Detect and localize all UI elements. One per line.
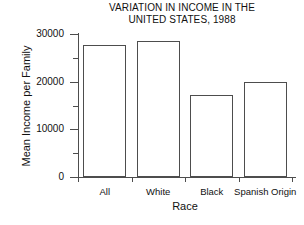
bar-black	[190, 95, 233, 177]
x-tick	[239, 177, 240, 182]
x-tick-label: Spanish Origin	[220, 186, 304, 197]
bar-all	[83, 45, 126, 177]
y-tick-label: 10000	[4, 124, 64, 134]
x-tick	[292, 177, 293, 182]
x-tick	[132, 177, 133, 182]
y-tick-label: 30000	[4, 29, 64, 39]
x-tick	[185, 177, 186, 182]
y-axis-label: Mean Income per Family	[20, 26, 32, 186]
chart-title: VARIATION IN INCOME IN THE UNITED STATES…	[60, 2, 304, 26]
bar-chart-figure: VARIATION IN INCOME IN THE UNITED STATES…	[0, 0, 304, 225]
y-tick-major	[70, 82, 78, 83]
y-axis-line	[78, 33, 79, 178]
y-tick-major	[70, 177, 78, 178]
chart-title-line-2: UNITED STATES, 1988	[60, 14, 304, 26]
y-tick-label: 0	[4, 172, 64, 182]
x-tick	[78, 177, 79, 182]
bar-spanish-origin	[244, 82, 287, 177]
bar-white	[137, 41, 180, 177]
chart-title-line-1: VARIATION IN INCOME IN THE	[60, 2, 304, 14]
y-tick-minor	[73, 153, 78, 154]
y-tick-minor	[73, 58, 78, 59]
x-axis-line	[70, 177, 296, 178]
x-axis-label: Race	[78, 200, 292, 212]
y-tick-major	[70, 34, 78, 35]
y-tick-label: 20000	[4, 77, 64, 87]
y-tick-major	[70, 129, 78, 130]
y-tick-minor	[73, 106, 78, 107]
